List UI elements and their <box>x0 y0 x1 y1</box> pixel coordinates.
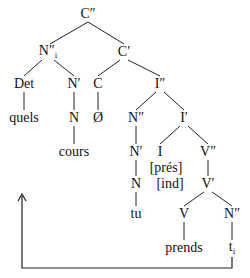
node-label: [prés] <box>150 160 183 175</box>
tree-node-i0: I <box>158 145 163 159</box>
tree-node-n0a: N <box>69 111 79 125</box>
tree-branch <box>188 126 208 144</box>
tree-node-c1: C′ <box>118 45 130 59</box>
tree-node-v1: V′ <box>201 177 214 191</box>
tree-branch <box>98 60 120 76</box>
tree-branch <box>54 60 74 76</box>
node-label: C <box>93 76 102 91</box>
tree-node-v0: V <box>179 207 189 221</box>
tree-node-n1b: N′ <box>129 145 142 159</box>
node-label: I″ <box>155 76 166 91</box>
tree-node-n0b: N <box>131 177 141 191</box>
tree-node-empty: Ø <box>93 111 103 125</box>
movement-arrow <box>22 196 232 268</box>
node-label: N′ <box>129 144 142 159</box>
tree-node-quels: quels <box>9 111 39 125</box>
tree-node-det: Det <box>14 77 34 91</box>
tree-branch <box>128 60 160 76</box>
node-label: N <box>131 176 141 191</box>
tree-node-i2: I″ <box>155 77 166 91</box>
node-label: Det <box>14 76 34 91</box>
tree-node-cours: cours <box>59 145 89 159</box>
node-index: i <box>55 50 58 60</box>
tree-node-n1a: N′ <box>67 77 80 91</box>
node-index: i <box>233 246 236 256</box>
tree-branch <box>184 192 204 206</box>
node-label: Ø <box>93 110 103 125</box>
tree-node-n2b: N″ <box>128 111 144 125</box>
node-label: I′ <box>180 110 188 125</box>
tree-node-n2c: N″ <box>224 207 240 221</box>
tree-node-v2: V″ <box>200 145 216 159</box>
node-label: prends <box>165 240 202 255</box>
node-label: V″ <box>200 144 216 159</box>
tree-branch <box>164 92 184 110</box>
node-label: [ind] <box>156 176 183 191</box>
node-label: quels <box>9 110 39 125</box>
tree-node-prends: prends <box>165 241 202 255</box>
tree-branch <box>88 22 124 44</box>
tree-branch <box>160 126 180 144</box>
tree-node-c2: C″ <box>80 7 95 21</box>
node-label: V′ <box>201 176 214 191</box>
tree-node-c0: C <box>93 77 102 91</box>
node-label: N <box>69 110 79 125</box>
tree-branch <box>24 60 42 76</box>
tree-branch <box>212 192 232 206</box>
node-label: tu <box>131 206 142 221</box>
tree-branch <box>50 22 88 44</box>
node-label: N″ <box>128 110 144 125</box>
node-label: V <box>179 206 189 221</box>
tree-node-n2i: N″i <box>39 44 57 60</box>
tree-branch <box>136 92 156 110</box>
node-label: I <box>158 144 163 159</box>
tree-node-pres: [prés] <box>150 161 183 175</box>
node-label: N″ <box>224 206 240 221</box>
tree-node-trace: ti <box>229 240 235 256</box>
node-label: C″ <box>80 6 95 21</box>
tree-node-ind: [ind] <box>156 177 183 191</box>
tree-node-i1: I′ <box>180 111 188 125</box>
node-label: C′ <box>118 44 130 59</box>
node-label: N′ <box>67 76 80 91</box>
node-label: N″ <box>39 43 55 58</box>
tree-node-tu: tu <box>131 207 142 221</box>
tree-edges <box>0 0 250 278</box>
node-label: cours <box>59 144 89 159</box>
